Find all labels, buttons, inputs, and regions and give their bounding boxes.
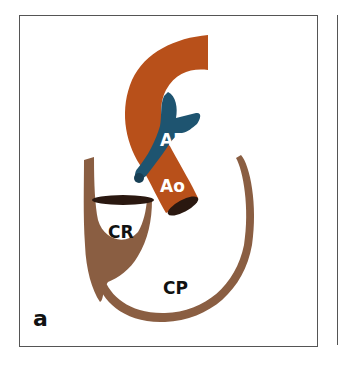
label-cp: CP (163, 278, 188, 298)
panel-label: a (33, 306, 48, 331)
heart-diagram: AP Ao CR CP a (0, 0, 339, 369)
pulmonary-artery-end (134, 173, 144, 183)
label-ap: AP (160, 130, 186, 150)
label-cr: CR (108, 222, 134, 242)
label-ao: Ao (160, 176, 185, 196)
cr-opening (92, 195, 154, 205)
